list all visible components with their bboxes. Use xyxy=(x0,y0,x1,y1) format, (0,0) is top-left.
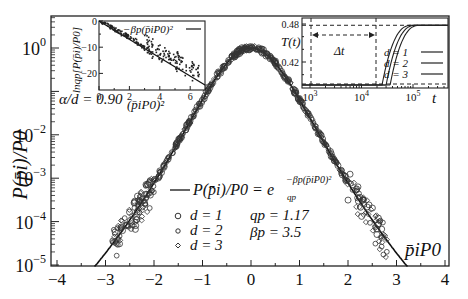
inset-left-x-label: (p̄iP0)² xyxy=(127,97,165,112)
legend-marker-d3 xyxy=(176,243,181,248)
legend-marker-d2 xyxy=(176,229,180,233)
delta-t-label: Δt xyxy=(333,44,345,58)
y-tick-label: 10−5 xyxy=(15,252,46,276)
svg-text:103: 103 xyxy=(303,89,318,103)
x-tick-label: 1 xyxy=(295,270,304,289)
svg-text:−10: −10 xyxy=(81,42,97,53)
y-tick-label: 10−4 xyxy=(15,209,46,233)
svg-text:0.42: 0.42 xyxy=(282,57,300,68)
fit-legend-exponent: −βp(p̄iP0)² xyxy=(286,174,332,186)
y-axis-label: P(p̄i)/P0 xyxy=(9,131,32,201)
fit-legend-label: P(p̄i)/P0 = e xyxy=(192,181,274,199)
svg-text:0: 0 xyxy=(92,16,97,27)
beta-p-value: βp = 3.5 xyxy=(249,224,302,240)
x-axis-label: p̄iP0 xyxy=(403,239,441,260)
x-tick-label: 4 xyxy=(441,270,450,289)
inset-right-x-label: t xyxy=(432,90,437,106)
inset-right-legend-d3: d = 3 xyxy=(384,68,408,80)
x-tick-label: −2 xyxy=(145,270,163,289)
alpha-d-annotation: α/d = 0.90 xyxy=(59,91,123,107)
inset-right-plot: 1031041050.480.42 xyxy=(282,18,449,103)
inset-right-y-label: T(t) xyxy=(281,34,301,49)
x-tick-label: 0 xyxy=(247,270,256,289)
svg-text:105: 105 xyxy=(406,89,421,103)
svg-text:−20: −20 xyxy=(81,68,97,79)
legend-marker-d1 xyxy=(175,213,181,219)
svg-text:104: 104 xyxy=(354,89,369,103)
x-tick-label: −3 xyxy=(96,270,114,289)
x-tick-label: −1 xyxy=(193,270,211,289)
q-p-value: qp = 1.17 xyxy=(250,207,310,223)
x-tick-label: −4 xyxy=(48,270,67,289)
chart: −4−3−2−10123410010−210−310−410−5 02460−1… xyxy=(0,0,468,299)
legend-label-d2: d = 2 xyxy=(190,222,223,238)
inset-left-legend-label: −βp(p̄iP0)² xyxy=(123,23,174,36)
x-tick-label: 2 xyxy=(344,270,353,289)
fit-legend-subscript: qp xyxy=(287,192,297,202)
svg-text:0.48: 0.48 xyxy=(282,19,300,30)
y-tick-label: 100 xyxy=(22,35,46,59)
legend-label-d3: d = 3 xyxy=(190,237,223,253)
x-tick-label: 3 xyxy=(392,270,401,289)
svg-text:6: 6 xyxy=(188,91,193,102)
inset-right-box xyxy=(302,18,448,88)
inset-left-y-label: lnqp[P(p̄i)/P0] xyxy=(70,27,83,93)
legend-label-d1: d = 1 xyxy=(190,207,223,223)
